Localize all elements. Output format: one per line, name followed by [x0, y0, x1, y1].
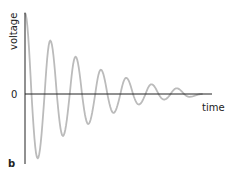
x-axis-label: time — [202, 102, 225, 113]
voltage-curve — [25, 13, 202, 158]
panel-label: b — [8, 158, 15, 169]
y-axis-label: voltage — [8, 13, 19, 50]
damped-oscillation-chart: voltage 0 time b — [0, 0, 232, 176]
y-tick-label-zero: 0 — [11, 89, 17, 100]
